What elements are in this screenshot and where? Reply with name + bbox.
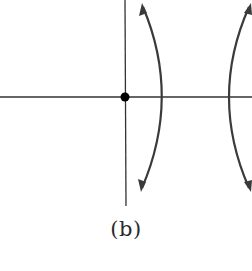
center-point xyxy=(121,93,130,102)
right-branch-top-arrow-icon xyxy=(244,3,252,15)
y-axis xyxy=(125,0,126,206)
figure-caption: (b) xyxy=(0,217,252,241)
right-branch-bottom-arrow-icon xyxy=(244,180,252,192)
